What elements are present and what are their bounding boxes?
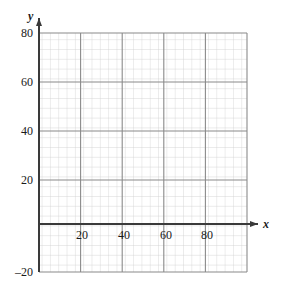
x-tick-label-20: 20	[76, 229, 88, 241]
x-tick-label-60: 60	[160, 229, 172, 241]
y-tick-label-60: 60	[21, 76, 33, 88]
minor-gridlines	[39, 33, 247, 272]
x-tick-label-80: 80	[201, 229, 213, 241]
y-tick-label-80: 80	[21, 27, 33, 39]
x-tick-label-40: 40	[118, 229, 130, 241]
x-axis-name: x	[263, 218, 269, 230]
y-axis-name: y	[28, 10, 33, 22]
y-tick-label-20: 20	[21, 174, 33, 186]
graph-canvas	[0, 0, 281, 294]
coordinate-graph: 20 40 60 80 80 60 40 20 –20 y x	[0, 0, 281, 294]
y-tick-label-minus-20: –20	[15, 266, 33, 278]
y-tick-label-40: 40	[21, 125, 33, 137]
